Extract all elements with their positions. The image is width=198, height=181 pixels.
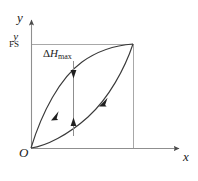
y-full-scale-label: y FS — [9, 31, 19, 49]
delta-h-arrow-up-icon — [71, 118, 77, 127]
delta-h-arrow-down-icon — [71, 70, 77, 79]
h-symbol: H — [50, 47, 58, 59]
hysteresis-figure: y x O y FS ΔHmax — [0, 0, 198, 181]
delta-h-max-label: ΔHmax — [43, 48, 72, 61]
y-full-scale-subscript: FS — [9, 40, 19, 49]
figure-canvas — [0, 0, 198, 181]
direction-arrow-upstroke-icon — [51, 111, 59, 120]
max-subscript: max — [58, 52, 72, 61]
y-axis-label: y — [17, 11, 23, 24]
origin-label: O — [19, 146, 28, 159]
x-axis-label: x — [183, 150, 189, 163]
direction-arrow-downstroke-icon — [99, 98, 108, 107]
